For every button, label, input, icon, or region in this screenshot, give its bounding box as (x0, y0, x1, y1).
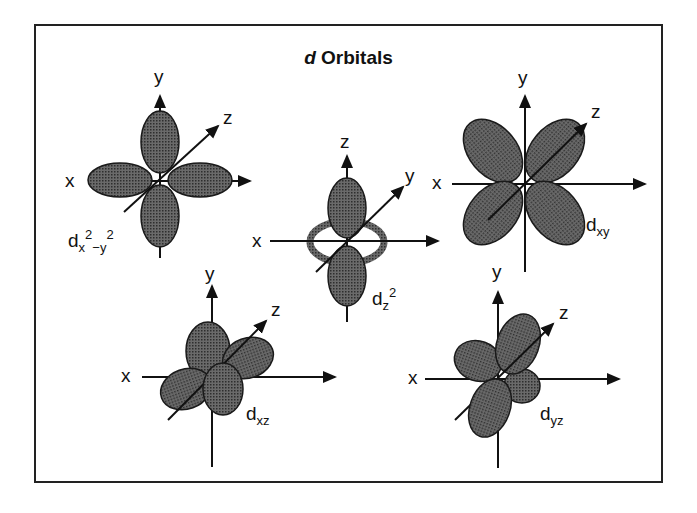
label-sup-2: 2 (389, 285, 396, 300)
label-sub-xz: xz (257, 413, 270, 428)
axis-label-x: x (252, 231, 262, 250)
axis-label-x: x (408, 368, 418, 387)
label-d: d (540, 403, 551, 424)
label-d: d (372, 288, 383, 309)
axis-label-y: y (492, 262, 502, 281)
axis-label-x: x (65, 171, 75, 190)
axis-label-x: x (432, 173, 442, 192)
orbital-dxz (142, 286, 335, 467)
axis-label-y: y (405, 166, 415, 185)
axis-label-z: z (591, 102, 601, 121)
label-d: d (246, 403, 257, 424)
label-sub-yz: yz (551, 413, 564, 428)
axis-label-y: y (154, 67, 164, 86)
label-sup-2b: 2 (106, 227, 113, 242)
label-d: d (68, 230, 79, 251)
label-sub-minus-y: −y (92, 240, 106, 255)
orbital-label-dz2: dz2 (372, 286, 396, 312)
axis-label-z: z (223, 108, 233, 127)
axis-label-z: z (340, 132, 350, 151)
axis-label-y: y (518, 68, 528, 87)
orbitals-diagram (0, 0, 697, 513)
axis-label-x: x (121, 366, 131, 385)
axis-label-y: y (205, 264, 215, 283)
label-sub-xy: xy (597, 224, 610, 239)
orbital-label-dyz: dyz (540, 404, 564, 427)
orbital-label-dxz: dxz (246, 404, 270, 427)
orbital-dyz (425, 292, 619, 468)
label-sub-x: x (79, 240, 86, 255)
orbital-label-dx2-y2: dx2−y2 (68, 228, 114, 254)
axis-label-z: z (559, 303, 569, 322)
orbital-dxy (451, 96, 645, 272)
label-sub-z: z (383, 298, 390, 313)
axis-label-z: z (271, 300, 281, 319)
label-d: d (586, 214, 597, 235)
orbital-label-dxy: dxy (586, 215, 610, 238)
